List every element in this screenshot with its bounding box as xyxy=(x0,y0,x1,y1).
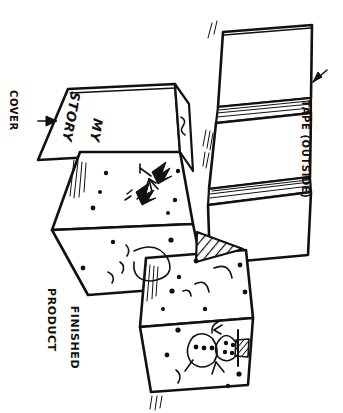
cover-label: COVER xyxy=(8,90,19,131)
finished-product-label: FINISHED PRODUCT xyxy=(23,288,92,369)
tape-outside-label: TAPE (OUTSIDE) xyxy=(300,100,311,198)
diagram-page: COVER FINISHED PRODUCT TAPE (OUTSIDE) MY… xyxy=(0,0,343,413)
finished-product-label-line2: PRODUCT xyxy=(46,288,58,369)
cover-title-line1: MY xyxy=(87,117,106,143)
finished-product-label-line1: FINISHED xyxy=(68,306,81,369)
cover-title-line2: STORY xyxy=(60,91,82,143)
